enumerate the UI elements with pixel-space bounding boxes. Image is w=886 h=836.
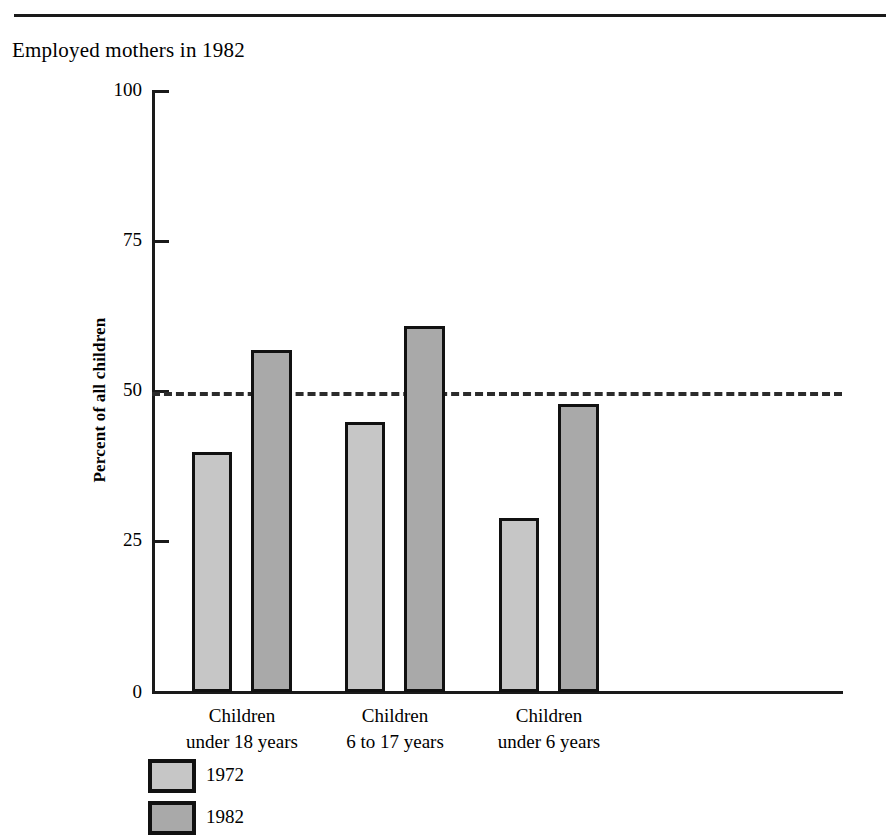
legend-swatch-1972 [148, 759, 196, 793]
y-tick-label-100: 100 [82, 79, 142, 101]
y-axis-title: Percent of all children [90, 290, 110, 510]
legend-label-1982: 1982 [206, 806, 244, 828]
bar-1972-children-under-18 [192, 452, 232, 692]
legend-swatch-1982 [148, 801, 196, 835]
y-tick-75 [152, 240, 169, 243]
y-tick-label-75: 75 [82, 229, 142, 251]
y-tick-25 [152, 540, 169, 543]
y-tick-100 [152, 90, 169, 93]
bar-1972-children-6-to-17 [345, 422, 385, 692]
bar-1972-children-under-6 [499, 518, 539, 692]
bar-1982-children-6-to-17 [404, 326, 445, 692]
y-tick-label-25: 25 [82, 529, 142, 551]
x-category-label-2: Children under 6 years [419, 703, 679, 755]
legend-label-1972: 1972 [206, 764, 244, 786]
x-category-label-2-line2: under 6 years [419, 729, 679, 755]
bar-1982-children-under-18 [251, 350, 292, 692]
x-category-label-2-line1: Children [419, 703, 679, 729]
y-tick-label-0: 0 [82, 681, 142, 703]
bar-1982-children-under-6 [558, 404, 599, 692]
bar-chart: 100 75 50 25 0 Percent of all children C… [0, 0, 886, 760]
